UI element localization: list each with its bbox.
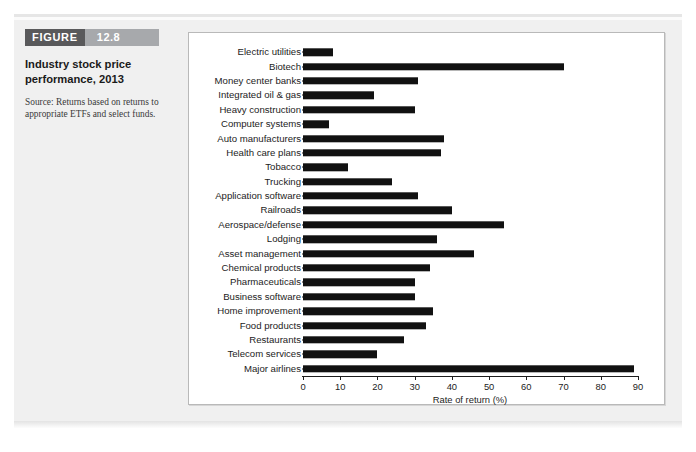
bar (303, 192, 418, 199)
bar (303, 178, 392, 185)
bar (303, 365, 634, 372)
plate-shadow (14, 421, 682, 428)
category-label: Railroads (260, 206, 301, 216)
bar-row: Trucking (189, 175, 664, 189)
figure-caption-block: FIGURE 12.8 Industry stock price perform… (25, 29, 175, 121)
bar-row: Chemical products (189, 261, 664, 275)
figure-tag: FIGURE 12.8 (25, 29, 159, 46)
bar (303, 207, 452, 214)
bar-row: Auto manufacturers (189, 131, 664, 145)
chart-panel: Rate of return (%) Electric utilitiesBio… (188, 32, 665, 405)
x-axis-tick (377, 376, 378, 380)
bar (303, 77, 418, 84)
category-label: Auto manufacturers (217, 134, 301, 144)
bar-row: Home improvement (189, 304, 664, 318)
x-axis-tick-label: 50 (484, 382, 494, 391)
x-axis-tick-label: 0 (300, 382, 305, 391)
bar (303, 135, 444, 142)
bar (303, 63, 564, 70)
category-label: Application software (215, 191, 301, 201)
bar-row: Aerospace/defense (189, 218, 664, 232)
figure-page: FIGURE 12.8 Industry stock price perform… (0, 0, 696, 452)
bar-row: Lodging (189, 232, 664, 246)
bar (303, 106, 415, 113)
figure-title: Industry stock price performance, 2013 (25, 57, 165, 87)
bar (303, 279, 415, 286)
bar-row: Pharmaceuticals (189, 275, 664, 289)
bar-row: Telecom services (189, 347, 664, 361)
bar-row: Business software (189, 290, 664, 304)
category-label: Computer systems (221, 119, 301, 129)
x-axis-tick (526, 376, 527, 380)
bar-row: Heavy construction (189, 103, 664, 117)
category-label: Heavy construction (219, 105, 301, 115)
category-label: Telecom services (227, 350, 301, 360)
bar (303, 164, 348, 171)
x-axis-tick (489, 376, 490, 380)
bar (303, 322, 426, 329)
x-axis-tick-label: 70 (558, 382, 568, 391)
bar (303, 308, 433, 315)
x-axis-tick-label: 40 (447, 382, 457, 391)
bar (303, 264, 430, 271)
bar (303, 236, 437, 243)
x-axis-line (302, 376, 638, 377)
category-label: Restaurants (249, 335, 301, 345)
x-axis-tick (601, 376, 602, 380)
category-label: Trucking (265, 177, 301, 187)
bar-row: Biotech (189, 59, 664, 73)
bar-row: Integrated oil & gas (189, 88, 664, 102)
x-axis-tick-label: 60 (521, 382, 531, 391)
category-label: Chemical products (222, 263, 301, 273)
x-axis-tick (340, 376, 341, 380)
bar (303, 351, 377, 358)
bar (303, 336, 404, 343)
bar-chart-plot: Rate of return (%) Electric utilitiesBio… (189, 33, 664, 404)
bar (303, 221, 504, 228)
x-axis-tick-label: 20 (372, 382, 382, 391)
category-label: Business software (223, 292, 301, 302)
x-axis-tick-label: 90 (633, 382, 643, 391)
x-axis-tick-label: 10 (335, 382, 345, 391)
x-axis-tick (415, 376, 416, 380)
bar-row: Computer systems (189, 117, 664, 131)
bar-row: Electric utilities (189, 45, 664, 59)
bar-row: Money center banks (189, 74, 664, 88)
x-axis-tick-label: 80 (596, 382, 606, 391)
bar (303, 149, 441, 156)
bar-row: Restaurants (189, 333, 664, 347)
category-label: Food products (240, 321, 301, 331)
bar (303, 92, 374, 99)
category-label: Money center banks (215, 76, 301, 86)
x-axis-tick-label: 30 (409, 382, 419, 391)
figure-tag-word: FIGURE (25, 29, 85, 46)
bar-row: Tobacco (189, 160, 664, 174)
category-label: Pharmaceuticals (230, 278, 301, 288)
bar-row: Food products (189, 318, 664, 332)
bar-row: Major airlines (189, 362, 664, 376)
category-label: Integrated oil & gas (218, 91, 301, 101)
bar (303, 250, 474, 257)
bar-row: Asset management (189, 246, 664, 260)
category-label: Tobacco (265, 163, 301, 173)
x-axis-title: Rate of return (%) (302, 395, 638, 404)
bar-row: Application software (189, 189, 664, 203)
x-axis-tick (638, 376, 639, 380)
x-axis-tick (564, 376, 565, 380)
category-label: Biotech (269, 62, 301, 72)
bar-row: Health care plans (189, 146, 664, 160)
category-label: Home improvement (217, 306, 301, 316)
category-label: Asset management (218, 249, 301, 259)
bar (303, 293, 415, 300)
category-label: Aerospace/defense (218, 220, 301, 230)
bar (303, 120, 329, 127)
x-axis-tick (452, 376, 453, 380)
figure-source-note: Source: Returns based on returns to appr… (25, 96, 167, 121)
figure-tag-number: 12.8 (85, 29, 159, 46)
category-label: Major airlines (244, 364, 301, 374)
x-axis-tick (303, 376, 304, 380)
bar-row: Railroads (189, 203, 664, 217)
category-label: Electric utilities (238, 47, 301, 57)
category-label: Health care plans (226, 148, 301, 158)
bar (303, 48, 333, 55)
